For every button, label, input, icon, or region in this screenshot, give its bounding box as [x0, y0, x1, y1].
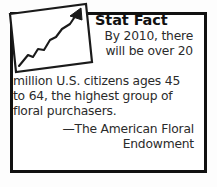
callout-body-rest: million U.S. citizens ages 45 to 64, the… — [13, 74, 194, 120]
callout-attribution: —The American Floral Endowment — [13, 122, 194, 153]
rising-chart-arrow-icon — [6, 2, 94, 76]
stat-fact-callout: Stat Fact By 2010, there will be over 20… — [0, 0, 217, 187]
